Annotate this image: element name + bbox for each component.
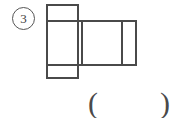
net-face-side-right <box>122 21 136 65</box>
net-face-front <box>47 21 78 65</box>
net-face-top-flap <box>47 5 78 21</box>
answer-close-paren: ) <box>160 88 170 118</box>
worksheet-page: 3 ( ) <box>0 0 178 118</box>
net-face-group <box>47 5 136 78</box>
net-face-back <box>82 21 122 65</box>
answer-open-paren: ( <box>88 88 98 118</box>
net-face-bottom-flap <box>47 65 78 78</box>
